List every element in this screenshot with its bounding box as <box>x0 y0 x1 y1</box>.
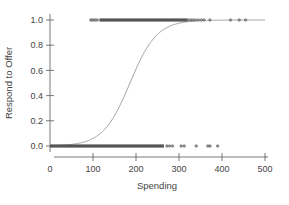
data-point <box>203 19 206 22</box>
dense-point-band <box>50 144 164 147</box>
y-tick-label: 0.4 <box>30 91 43 101</box>
x-tick-label: 400 <box>214 164 229 174</box>
x-axis-label: Spending <box>137 180 177 191</box>
logistic-curve <box>54 20 265 146</box>
data-point <box>183 145 186 148</box>
data-point <box>238 19 241 22</box>
data-point <box>209 145 212 148</box>
data-point <box>180 145 183 148</box>
y-tick-label: 0.2 <box>30 116 43 126</box>
y-tick-label: 0.0 <box>30 141 43 151</box>
data-point <box>171 145 174 148</box>
x-axis: 0100200300400500 <box>47 153 272 174</box>
data-point <box>168 145 171 148</box>
data-point <box>197 19 200 22</box>
data-point <box>229 19 232 22</box>
x-tick-label: 500 <box>257 164 272 174</box>
data-point <box>216 145 219 148</box>
dense-point-band <box>99 18 187 21</box>
data-point <box>200 19 203 22</box>
data-points <box>50 18 247 147</box>
data-point <box>166 145 169 148</box>
data-point <box>209 19 212 22</box>
logistic-regression-chart: 0.00.20.40.60.81.0 0100200300400500 Spen… <box>0 0 289 205</box>
y-tick-label: 0.8 <box>30 40 43 50</box>
x-tick-label: 300 <box>171 164 186 174</box>
data-point <box>187 19 190 22</box>
data-point <box>194 19 197 22</box>
x-tick-label: 200 <box>128 164 143 174</box>
y-axis-label: Respond to Offer <box>3 47 14 119</box>
y-axis: 0.00.20.40.60.81.0 <box>30 14 54 152</box>
data-point <box>96 19 99 22</box>
y-tick-label: 0.6 <box>30 66 43 76</box>
data-point <box>195 145 198 148</box>
y-tick-label: 1.0 <box>30 15 43 25</box>
x-tick-label: 100 <box>85 164 100 174</box>
data-point <box>244 19 247 22</box>
x-tick-label: 0 <box>47 164 52 174</box>
